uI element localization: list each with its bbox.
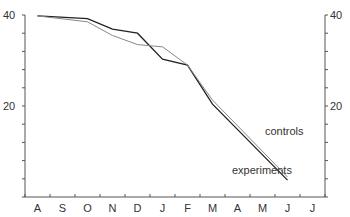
x-tick-label: A xyxy=(34,202,42,214)
y-label-20-right: 20 xyxy=(330,100,342,112)
experiments-line xyxy=(38,16,288,180)
x-axis-labels: ASONDJFMAMJJ xyxy=(34,202,315,214)
x-tick-label: F xyxy=(184,202,191,214)
x-tick-label: N xyxy=(109,202,117,214)
x-tick-label: M xyxy=(258,202,267,214)
x-tick-label: J xyxy=(285,202,291,214)
x-tick-label: M xyxy=(208,202,217,214)
controls-annotation: controls xyxy=(265,125,304,137)
x-tick-label: A xyxy=(234,202,242,214)
chart-svg: 40 20 40 20 controls experiments ASONDJF… xyxy=(0,0,350,217)
experiments-annotation: experiments xyxy=(232,164,292,176)
line-chart: 40 20 40 20 controls experiments ASONDJF… xyxy=(0,0,350,217)
x-tick-label: S xyxy=(59,202,66,214)
x-tick-label: J xyxy=(310,202,316,214)
y-label-40-right: 40 xyxy=(330,9,342,21)
x-tick-label: D xyxy=(134,202,142,214)
x-tick-label: J xyxy=(160,202,166,214)
y-label-20-left: 20 xyxy=(3,100,15,112)
x-tick-label: O xyxy=(83,202,92,214)
controls-line xyxy=(38,16,288,177)
y-label-40-left: 40 xyxy=(3,9,15,21)
series xyxy=(38,16,288,180)
